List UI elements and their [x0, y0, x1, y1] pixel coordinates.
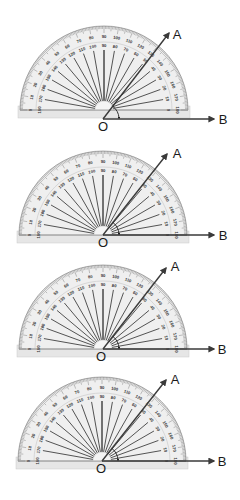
inner-scale-label: 180: [35, 457, 40, 465]
vertex-o-label: O: [96, 349, 106, 364]
inner-scale-label: 90: [101, 168, 106, 173]
protractor-panel: 0180101702016030150401405013060120701108…: [17, 259, 226, 364]
point-b-label: B: [218, 454, 227, 469]
vertex-o-label: O: [96, 461, 106, 476]
inner-scale-label: 180: [36, 345, 41, 353]
point-a-label: A: [171, 372, 180, 387]
inner-scale-label: 90: [100, 394, 105, 399]
point-b-label: B: [218, 342, 227, 357]
outer-scale-label: 90: [102, 34, 107, 39]
panels-container: 0180101702016030150401405013060120701108…: [16, 26, 227, 476]
inner-scale-label: 90: [101, 282, 106, 287]
outer-scale-label: 90: [101, 159, 106, 164]
protractor-panel: 0180101702016030150401405013060120701108…: [17, 146, 227, 250]
vertex-o-label: O: [98, 119, 108, 134]
outer-scale-label: 180: [175, 107, 180, 115]
protractor-diagram: 0180101702016030150401405013060120701108…: [0, 0, 240, 500]
protractor-panel: 0180101702016030150401405013060120701108…: [18, 26, 227, 134]
point-a-label: A: [173, 27, 182, 42]
inner-scale-label: 180: [36, 231, 41, 239]
inner-scale-label: 180: [37, 106, 42, 114]
point-b-label: B: [219, 228, 228, 243]
outer-scale-label: 90: [101, 273, 106, 278]
point-a-label: A: [173, 146, 182, 161]
protractor-panel: 0180101702016030150401405013060120701108…: [16, 372, 226, 476]
inner-scale-label: 90: [102, 43, 107, 48]
point-b-label: B: [219, 112, 228, 127]
outer-scale-label: 90: [100, 385, 105, 390]
vertex-o-label: O: [98, 235, 108, 250]
point-a-label: A: [171, 259, 180, 274]
